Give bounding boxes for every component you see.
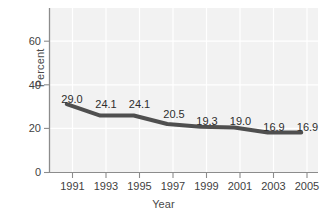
line-chart: Percent Year 0 20 40 60 1991 1993 1995 1… [0, 0, 327, 220]
data-label-1995: 24.1 [125, 98, 155, 110]
x-tick-label-1993: 1993 [89, 180, 123, 192]
x-tick-label-2005: 2005 [290, 180, 324, 192]
data-label-1991: 29.0 [57, 93, 87, 105]
y-tick-label-20: 20 [19, 122, 41, 134]
x-axis-title: Year [0, 198, 327, 210]
x-tick-label-1995: 1995 [123, 180, 157, 192]
x-tick-label-1999: 1999 [190, 180, 224, 192]
x-tick-label-2003: 2003 [257, 180, 291, 192]
data-label-1993: 24.1 [91, 98, 121, 110]
x-tick-label-1997: 1997 [156, 180, 190, 192]
x-tick-label-1991: 1991 [56, 180, 90, 192]
data-label-2001: 19.0 [226, 115, 256, 127]
data-label-2005: 16.9 [293, 121, 323, 133]
x-tick-label-2001: 2001 [223, 180, 257, 192]
y-tick-label-40: 40 [19, 79, 41, 91]
y-tick-label-60: 60 [19, 35, 41, 47]
data-label-1997: 20.5 [159, 108, 189, 120]
y-tick-label-0: 0 [19, 166, 41, 178]
data-label-1999: 19.3 [192, 115, 222, 127]
data-label-2003: 16.9 [259, 121, 289, 133]
plot-area-background [50, 8, 318, 172]
